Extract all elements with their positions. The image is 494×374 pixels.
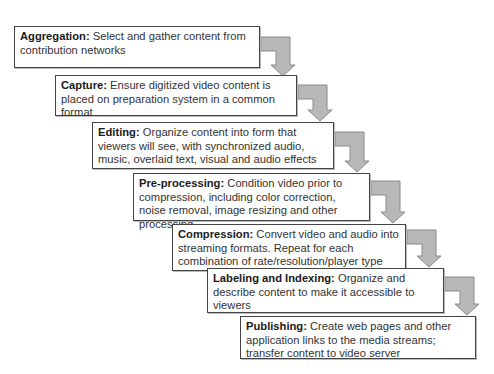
step-title: Capture: bbox=[61, 79, 107, 91]
step-editing: Editing: Organize content into form that… bbox=[92, 122, 334, 169]
elbow-arrow-icon bbox=[371, 181, 405, 223]
step-title: Compression: bbox=[178, 228, 253, 240]
elbow-arrow-icon bbox=[407, 230, 441, 267]
elbow-arrow-icon bbox=[261, 37, 295, 76]
step-aggregation: Aggregation: Select and gather content f… bbox=[14, 26, 260, 68]
step-labeling-indexing: Labeling and Indexing: Organize and desc… bbox=[207, 268, 444, 313]
workflow-diagram: Aggregation: Select and gather content f… bbox=[0, 0, 494, 374]
step-title: Pre-processing: bbox=[139, 177, 224, 189]
step-title: Editing: bbox=[98, 126, 140, 138]
step-publishing: Publishing: Create web pages and other a… bbox=[240, 316, 476, 359]
step-title: Publishing: bbox=[246, 320, 307, 332]
elbow-arrow-icon bbox=[335, 132, 369, 172]
step-compression: Compression: Convert video and audio int… bbox=[172, 224, 406, 271]
step-title: Labeling and Indexing: bbox=[213, 272, 335, 284]
step-title: Aggregation: bbox=[20, 30, 90, 42]
elbow-arrow-icon bbox=[298, 85, 332, 121]
step-capture: Capture: Ensure digitized video content … bbox=[55, 75, 297, 116]
step-pre-processing: Pre-processing: Condition video prior to… bbox=[133, 173, 370, 221]
elbow-arrow-icon bbox=[445, 277, 479, 315]
